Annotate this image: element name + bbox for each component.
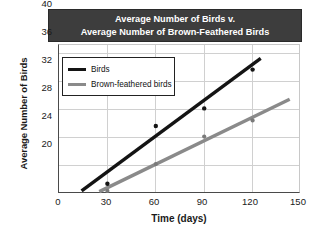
legend-item-birds: Birds <box>68 62 169 77</box>
y-tick-label: 32 <box>30 54 52 65</box>
chart-title-banner: Average Number of Birds v. Average Numbe… <box>48 9 302 42</box>
x-axis-label: Time (days) <box>58 213 300 224</box>
x-tick-label: 150 <box>283 196 313 207</box>
y-axis-label: Average Number of Birds <box>18 39 29 189</box>
chart-title-line-2: Average Number of Brown-Feathered Birds <box>81 26 270 39</box>
x-tick-label: 120 <box>235 196 265 207</box>
data-point-brown-feathered-birds <box>251 118 255 122</box>
y-tick-label: 36 <box>30 26 52 37</box>
chart-figure: Average Number of Birds v. Average Numbe… <box>0 0 315 233</box>
chart-title-line-1: Average Number of Birds v. <box>115 13 235 26</box>
x-tick-label: 90 <box>187 196 217 207</box>
legend-label-brown-feathered-birds: Brown-feathered birds <box>91 80 172 89</box>
data-point-birds <box>250 67 254 71</box>
trendline-brown-feathered-birds <box>99 99 289 191</box>
y-tick-label: 28 <box>30 82 52 93</box>
legend-swatch-birds <box>68 68 86 72</box>
x-tick-label: 0 <box>43 196 73 207</box>
y-tick-label: 24 <box>30 110 52 121</box>
y-tick-label: 20 <box>30 138 52 149</box>
data-point-brown-feathered-birds <box>105 189 109 193</box>
data-point-brown-feathered-birds <box>154 162 158 166</box>
x-tick-label: 30 <box>91 196 121 207</box>
data-point-birds <box>105 182 109 186</box>
data-point-birds <box>202 106 206 110</box>
legend-swatch-brown-feathered-birds <box>68 83 86 86</box>
x-tick-label: 60 <box>139 196 169 207</box>
data-point-birds <box>154 124 158 128</box>
chart-legend: Birds Brown-feathered birds <box>62 57 175 96</box>
legend-label-birds: Birds <box>91 65 110 74</box>
y-tick-label: 40 <box>30 0 52 9</box>
data-point-brown-feathered-birds <box>202 135 206 139</box>
legend-item-brown-feathered-birds: Brown-feathered birds <box>68 77 169 92</box>
